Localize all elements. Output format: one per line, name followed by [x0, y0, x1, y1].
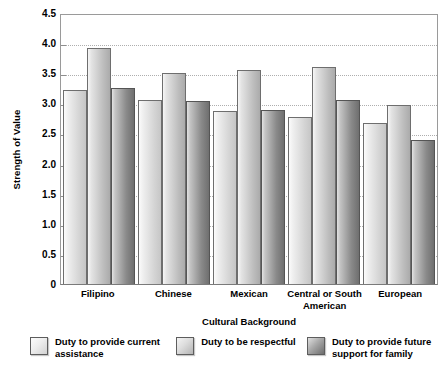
bar-chart: Strength of Value 4.54.03.53.02.52.01.51…	[0, 0, 448, 381]
bar[interactable]	[111, 88, 135, 284]
bar[interactable]	[63, 90, 87, 284]
bar-group	[363, 15, 435, 284]
y-tick-label: 0.5	[42, 250, 56, 260]
legend-swatch-icon	[30, 337, 48, 355]
bar[interactable]	[213, 111, 237, 284]
legend-item[interactable]: Duty to be respectful	[176, 336, 296, 376]
bar-group	[63, 15, 135, 284]
bar[interactable]	[387, 105, 411, 284]
bar[interactable]	[186, 101, 210, 284]
bar-group	[213, 15, 285, 284]
x-category-label: Central or South American	[287, 288, 363, 316]
y-tick-label: 2.5	[42, 129, 56, 139]
y-tick-label: 3.0	[42, 99, 56, 109]
legend-label: Duty to provide future support for famil…	[332, 336, 442, 359]
bar[interactable]	[312, 67, 336, 284]
y-tick-label: 0	[50, 280, 56, 290]
bar[interactable]	[336, 100, 360, 284]
x-axis-category-labels: FilipinoChineseMexicanCentral or South A…	[60, 288, 438, 316]
y-tick-label: 2.0	[42, 160, 56, 170]
x-category-label: Chinese	[136, 288, 212, 316]
legend: Duty to provide current assistanceDuty t…	[30, 336, 442, 376]
y-tick-label: 1.0	[42, 220, 56, 230]
bar[interactable]	[363, 123, 387, 284]
y-tick-label: 4.0	[42, 39, 56, 49]
legend-swatch-icon	[307, 337, 325, 355]
bar[interactable]	[162, 73, 186, 284]
y-axis-tick-labels: 4.54.03.53.02.52.01.51.00.50	[22, 0, 56, 381]
y-axis-title: Strength of Value	[11, 80, 22, 220]
bar[interactable]	[138, 100, 162, 284]
plot-area	[60, 14, 438, 285]
legend-swatch-icon	[176, 337, 194, 355]
bar-group	[288, 15, 360, 284]
bar-groups	[61, 15, 437, 284]
legend-label: Duty to provide current assistance	[55, 336, 165, 359]
y-tick-label: 3.5	[42, 69, 56, 79]
bar[interactable]	[411, 140, 435, 284]
bar[interactable]	[237, 70, 261, 284]
bar-group	[138, 15, 210, 284]
bar[interactable]	[87, 48, 111, 284]
x-category-label: Filipino	[60, 288, 136, 316]
y-tick-label: 1.5	[42, 190, 56, 200]
legend-label: Duty to be respectful	[201, 336, 296, 348]
legend-item[interactable]: Duty to provide future support for famil…	[307, 336, 442, 376]
y-tick-label: 4.5	[42, 9, 56, 19]
bar[interactable]	[288, 117, 312, 284]
x-category-label: European	[362, 288, 438, 316]
x-axis-title: Cultural Background	[60, 316, 438, 327]
bar[interactable]	[261, 110, 285, 284]
legend-item[interactable]: Duty to provide current assistance	[30, 336, 165, 376]
x-category-label: Mexican	[211, 288, 287, 316]
